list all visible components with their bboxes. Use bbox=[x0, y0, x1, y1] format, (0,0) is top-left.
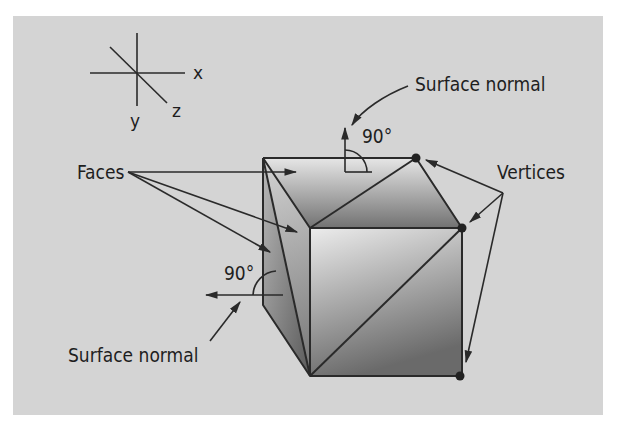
faces-label: Faces bbox=[77, 161, 124, 183]
faces-arrow-side bbox=[128, 172, 270, 252]
angle-label-top: 90° bbox=[362, 125, 392, 147]
axis-gizmo: x y z bbox=[90, 33, 203, 131]
z-axis-line bbox=[110, 47, 167, 103]
left-surface-normal: 90° Surface normal bbox=[68, 262, 283, 366]
pointer-arrow bbox=[352, 86, 408, 125]
vertex-arrow-top bbox=[426, 160, 503, 193]
cube-diagram: x y z 90° Surface normal bbox=[0, 0, 634, 424]
cube bbox=[263, 154, 467, 381]
y-axis-label: y bbox=[130, 111, 140, 131]
z-axis-label: z bbox=[172, 101, 181, 121]
surface-normal-label-top: Surface normal bbox=[415, 73, 545, 95]
angle-label-left: 90° bbox=[224, 262, 254, 284]
x-axis-label: x bbox=[193, 63, 203, 83]
vertex-dot bbox=[456, 372, 465, 381]
vertex-arrow-bottom bbox=[466, 193, 503, 362]
vertices-label: Vertices bbox=[497, 161, 565, 183]
vertex-dot bbox=[412, 154, 421, 163]
pointer-arrow bbox=[210, 302, 240, 341]
surface-normal-label-left: Surface normal bbox=[68, 344, 198, 366]
vertex-dot bbox=[458, 224, 467, 233]
